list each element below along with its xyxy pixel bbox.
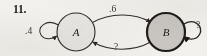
edge-a-to-b xyxy=(93,15,151,23)
node-a-label: A xyxy=(73,27,80,38)
edge-b-to-a xyxy=(93,42,151,49)
markov-chain-figure: 11. A B .4 .6 ? ? xyxy=(0,0,207,56)
edge-a-self-loop xyxy=(40,23,59,39)
edge-label-a-self-loop: .4 xyxy=(25,27,32,37)
node-b-label: B xyxy=(163,27,170,38)
edge-label-b-to-a: ? xyxy=(114,43,118,53)
edge-label-a-to-b: .6 xyxy=(109,5,116,15)
edge-label-b-self-loop: ? xyxy=(196,21,200,31)
problem-number: 11. xyxy=(13,4,26,16)
